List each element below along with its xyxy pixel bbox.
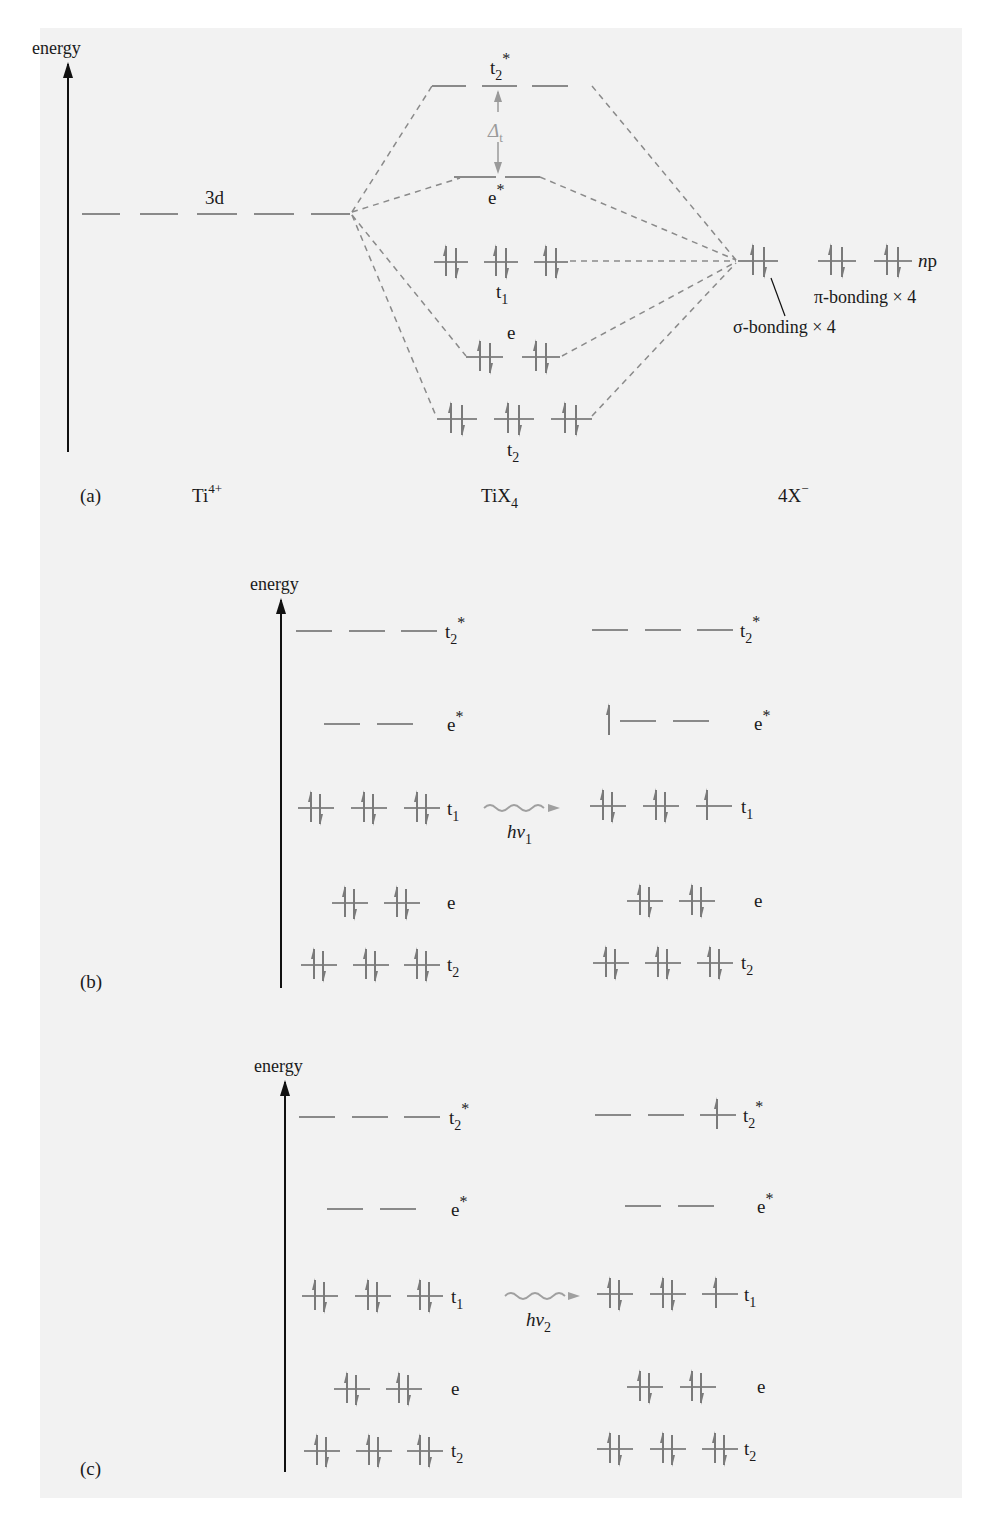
panel-b: energy t2* e* t1 e t2 [80,574,770,993]
panel-c-label: (c) [80,1458,101,1480]
t2-star-label: t2* [490,50,510,83]
energy-axis-label: energy [250,574,299,594]
panel-b-label: (b) [80,971,102,993]
mo-diagram: energy 3d t2* [0,0,993,1522]
t2-label: t2 [507,439,519,465]
t2-star-label: t2* [740,613,760,646]
photon-wave-icon [484,805,544,811]
panel-a: energy 3d t2* [32,38,937,511]
e-star-label: e* [757,1190,773,1217]
e-star-label: e* [447,708,463,735]
e-label: e [754,890,762,911]
arrowhead-icon [280,1080,290,1096]
t1-label: t1 [451,1286,463,1312]
ti4-label: Ti4+ [192,481,222,506]
e-star-label: e* [754,707,770,734]
4x-label: 4X− [778,481,809,506]
t2-level [437,401,592,437]
e-label: e [451,1378,459,1399]
e-label: e [447,892,455,913]
hv2-label: hν2 [526,1309,551,1335]
arrowhead-icon [63,62,73,78]
t2-star-label: t2* [445,614,465,647]
t2-star-label: t2* [449,1100,469,1133]
e-star-label: e* [451,1193,467,1220]
e-star-label: e* [488,181,504,208]
e-level [466,339,560,375]
ligand-np-levels [738,243,912,279]
arrowhead-icon [276,598,286,614]
hv1-label: hν1 [507,821,532,847]
ground-state-empty-levels [296,631,437,724]
ground-state-filled-levels [298,790,440,983]
t2-star-label: t2* [743,1098,763,1131]
correlation-lines [352,86,736,416]
energy-axis-label: energy [32,38,81,58]
ground-state-levels [299,1117,443,1469]
t2-label: t2 [447,954,459,980]
excited-state-levels [595,1097,738,1467]
panel-c: energy t2* e* t1 e t2 [80,1056,773,1480]
np-label: np [918,250,937,271]
t1-level [434,244,568,280]
e-label: e [507,322,515,343]
photon-arrowhead-icon [548,804,560,812]
photon-arrowhead-icon [568,1292,580,1300]
sigma-bonding-label: σ-bonding × 4 [733,317,836,337]
t2-label: t2 [451,1440,463,1466]
t1-label: t1 [741,796,753,822]
sigma-leader-line [771,278,785,316]
panel-a-label: (a) [80,485,101,507]
t2-label: t2 [744,1438,756,1464]
pi-bonding-label: π-bonding × 4 [814,287,916,307]
tix4-label: TiX4 [481,485,518,511]
excited-state-levels [590,630,733,981]
level-3d-label: 3d [205,187,225,208]
energy-axis-label: energy [254,1056,303,1076]
e-label: e [757,1376,765,1397]
photon-wave-icon [505,1293,565,1299]
t1-label: t1 [744,1284,756,1310]
t2-label: t2 [741,952,753,978]
t1-label: t1 [496,281,508,307]
t1-label: t1 [447,798,459,824]
